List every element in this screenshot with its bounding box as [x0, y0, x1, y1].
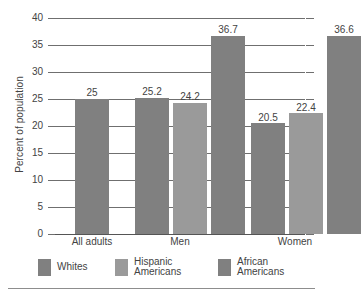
bar-value-women-african-american: 36.6 [325, 24, 363, 35]
y-tick-mark-35 [48, 45, 55, 46]
bar-value-women-whites: 20.5 [249, 112, 287, 123]
gridline-30 [55, 72, 305, 73]
bar-men-african-american[interactable] [211, 36, 245, 234]
y-tick-label-0: 0 [3, 229, 43, 239]
y-tick-mark-25 [48, 99, 55, 100]
y-tick-label-25: 25 [3, 94, 43, 104]
y-tick-mark-20 [48, 126, 55, 127]
bar-value-men-hispanic: 24.2 [171, 91, 209, 102]
bar-men-hispanic[interactable] [173, 103, 207, 234]
legend-item-hispanic-americans[interactable]: Hispanic Americans [115, 252, 181, 282]
gridline-40 [55, 18, 305, 19]
y-tick-mark-15 [48, 153, 55, 154]
y-tick-label-30: 30 [3, 67, 43, 77]
x-axis-baseline [55, 234, 305, 235]
y-tick-label-40: 40 [3, 13, 43, 23]
legend-swatch-hispanic-americans-icon [115, 259, 128, 276]
legend-item-whites[interactable]: Whites [38, 252, 88, 282]
gridline-35 [55, 45, 305, 46]
y-tick-mark-right-30 [306, 72, 314, 73]
bar-value-women-hispanic: 22.4 [287, 102, 325, 113]
legend-swatch-african-americans-icon [218, 259, 231, 276]
x-category-label-men: Men [150, 236, 210, 247]
bar-women-african-american[interactable] [327, 36, 361, 234]
x-category-label-women: Women [260, 236, 330, 247]
y-tick-mark-5 [48, 207, 55, 208]
y-tick-label-10: 10 [3, 175, 43, 185]
bar-value-men-african-american: 36.7 [209, 24, 247, 35]
x-category-label-all-adults: All adults [52, 236, 132, 247]
y-tick-mark-0 [48, 234, 55, 235]
bar-men-whites[interactable] [135, 98, 169, 234]
y-tick-label-35: 35 [3, 40, 43, 50]
legend-label-african-americans: African Americans [237, 257, 284, 278]
bottom-divider [8, 288, 315, 289]
bar-value-men-whites: 25.2 [133, 86, 171, 97]
y-tick-mark-right-0 [306, 234, 314, 235]
plot-area: 40 35 30 25 20 15 10 [55, 18, 305, 234]
y-tick-label-15: 15 [3, 148, 43, 158]
y-tick-mark-40 [48, 18, 55, 19]
legend-swatch-whites-icon [38, 259, 51, 276]
y-tick-mark-right-40 [306, 18, 314, 19]
chart-legend: Whites Hispanic Americans African Americ… [0, 252, 323, 284]
bar-women-whites-actual[interactable] [251, 123, 285, 234]
y-tick-mark-right-35 [306, 45, 314, 46]
y-tick-label-5: 5 [3, 202, 43, 212]
bar-value-all-adults-whites: 25 [75, 87, 109, 98]
y-tick-label-20: 20 [3, 121, 43, 131]
legend-label-hispanic-americans: Hispanic Americans [134, 257, 181, 278]
y-tick-mark-10 [48, 180, 55, 181]
legend-label-whites: Whites [57, 262, 88, 273]
y-tick-mark-30 [48, 72, 55, 73]
bar-all-adults-whites[interactable] [75, 99, 109, 234]
legend-item-african-americans[interactable]: African Americans [218, 252, 284, 282]
bar-women-hispanic-actual[interactable] [289, 113, 323, 234]
y-tick-mark-right-25 [306, 99, 314, 100]
plot-area-wrapper: Percent of population 40 35 30 25 20 [0, 0, 323, 250]
